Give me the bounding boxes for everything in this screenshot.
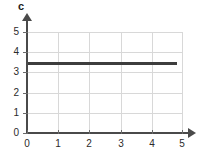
- y-axis-tick: [23, 93, 28, 94]
- gridline-vertical: [58, 32, 59, 133]
- x-tick-label: 3: [113, 138, 129, 150]
- gridline-vertical: [89, 32, 90, 133]
- y-axis-tick: [23, 72, 28, 73]
- y-tick-label: 4: [5, 47, 19, 57]
- plot-area: [27, 32, 183, 133]
- gridline-vertical: [152, 32, 153, 133]
- x-tick-label: 4: [144, 138, 160, 150]
- x-tick-label: 1: [50, 138, 66, 150]
- x-axis-tick: [58, 130, 59, 134]
- y-axis-tick: [23, 113, 28, 114]
- x-tick-label: 2: [81, 138, 97, 150]
- chart-container: c 0 1 2 3 4 5 0 1 2 3 4: [0, 0, 201, 158]
- gridline-horizontal: [27, 72, 183, 73]
- y-axis-tick: [23, 32, 28, 33]
- gridline-horizontal: [27, 93, 183, 94]
- y-tick-label: 5: [5, 27, 19, 37]
- x-tick-label: 0: [19, 138, 35, 150]
- x-axis-tick: [152, 130, 153, 134]
- y-tick-label: 3: [5, 67, 19, 77]
- gridline-horizontal: [27, 52, 183, 53]
- y-tick-label: 0: [5, 128, 19, 138]
- gridline-vertical: [182, 32, 183, 133]
- series-line-c: [27, 62, 177, 65]
- x-axis-tick: [89, 130, 90, 134]
- x-axis-tick: [121, 130, 122, 134]
- y-tick-label: 1: [5, 108, 19, 118]
- gridline-vertical: [121, 32, 122, 133]
- y-axis: [26, 20, 28, 134]
- y-axis-tick: [23, 133, 28, 134]
- arrow-up-icon: [22, 13, 32, 21]
- x-axis-tick: [182, 130, 183, 134]
- y-axis-label: c: [18, 1, 24, 12]
- x-axis: [27, 132, 190, 134]
- gridline-horizontal: [27, 113, 183, 114]
- y-axis-tick: [23, 52, 28, 53]
- arrow-right-icon: [188, 128, 196, 138]
- x-tick-label: 5: [174, 138, 190, 150]
- gridline-horizontal: [27, 32, 183, 33]
- y-tick-label: 2: [5, 88, 19, 98]
